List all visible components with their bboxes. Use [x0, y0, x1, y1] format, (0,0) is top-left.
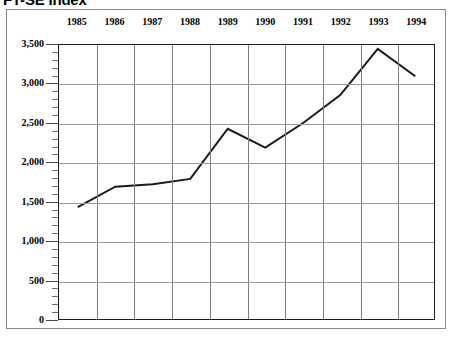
- y-axis-tick-label: 2,500: [0, 118, 44, 128]
- y-axis-major-tick: [46, 83, 58, 84]
- y-axis-major-tick: [46, 281, 58, 282]
- gridline-vertical: [134, 45, 135, 319]
- y-axis-tick-label: 3,000: [0, 78, 44, 88]
- plot-area: [58, 44, 435, 320]
- y-axis-major-tick: [46, 320, 58, 321]
- y-axis-tick-label: 2,000: [0, 157, 44, 167]
- line-series-ftse-index: [59, 45, 434, 319]
- gridline-vertical: [172, 45, 173, 319]
- y-axis-tick-label: 1,000: [0, 236, 44, 246]
- gridline-vertical: [97, 45, 98, 319]
- gridline-horizontal: [59, 163, 434, 164]
- gridline-vertical: [248, 45, 249, 319]
- gridline-horizontal: [59, 282, 434, 283]
- gridline-vertical: [285, 45, 286, 319]
- y-axis-tick-label: 1,500: [0, 197, 44, 207]
- y-axis-major-tick: [46, 123, 58, 124]
- gridline-vertical: [323, 45, 324, 319]
- x-axis-label-row: 1985198619871988198919901991199219931994: [0, 0, 453, 28]
- gridline-horizontal: [59, 124, 434, 125]
- gridline-vertical: [210, 45, 211, 319]
- y-axis-major-tick: [46, 44, 58, 45]
- gridline-horizontal: [59, 84, 434, 85]
- y-axis-tick-label: 3,500: [0, 39, 44, 49]
- y-axis-major-tick: [46, 162, 58, 163]
- gridline-horizontal: [59, 203, 434, 204]
- chart-figure: FT-SE Index 1985198619871988198919901991…: [0, 0, 453, 340]
- y-axis-major-tick: [46, 202, 58, 203]
- y-axis-major-tick: [46, 241, 58, 242]
- x-axis-tick-label: 1994: [393, 16, 439, 28]
- y-axis-tick-label: 500: [0, 276, 44, 286]
- gridline-vertical: [398, 45, 399, 319]
- gridline-horizontal: [59, 242, 434, 243]
- y-axis-label-column: 05001,0001,5002,0002,5003,0003,500: [0, 0, 58, 340]
- gridline-vertical: [361, 45, 362, 319]
- y-axis-tick-label: 0: [0, 315, 44, 325]
- series-polyline: [78, 49, 416, 207]
